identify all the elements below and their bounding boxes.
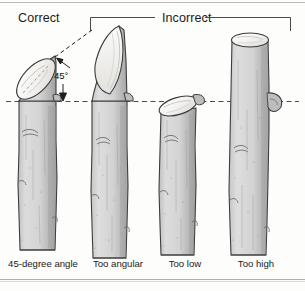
frame-bottom-rule-2 (0, 281, 305, 282)
bud-node (160, 135, 197, 226)
angle-value-label: 45° (54, 70, 68, 81)
bud-node (230, 145, 269, 232)
caption-too-angular: Too angular (88, 258, 148, 269)
frame-top-rule (0, 2, 305, 3)
heading-incorrect: Incorrect (162, 11, 212, 25)
angle-indicator (55, 30, 92, 101)
illustration-layer (0, 0, 305, 291)
frame-bottom-rule (0, 279, 305, 280)
stem-too-low (157, 92, 205, 255)
pruning-cut-diagram: Correct Incorrect (0, 0, 305, 291)
caption-45-degree-angle: 45-degree angle (4, 258, 82, 269)
bud-node (91, 137, 129, 232)
stem-too-angular (91, 26, 133, 258)
stem-correct-45 (10, 52, 62, 250)
caption-too-high: Too high (228, 258, 284, 269)
stem-too-high (229, 33, 282, 255)
caption-too-low: Too low (158, 258, 212, 269)
heading-correct: Correct (18, 11, 60, 25)
bud-node (18, 129, 57, 222)
